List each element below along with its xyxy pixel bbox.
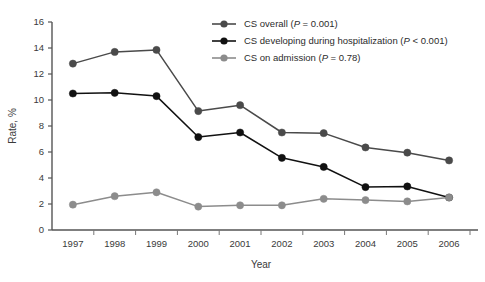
- data-point: [278, 129, 285, 136]
- data-point: [278, 202, 285, 209]
- x-tick-label: 2006: [439, 238, 460, 249]
- legend-marker-icon: [220, 20, 227, 27]
- y-tick-label: 6: [39, 146, 44, 157]
- data-point: [195, 203, 202, 210]
- data-point: [320, 195, 327, 202]
- legend-label: CS overall (P = 0.001): [244, 18, 338, 29]
- data-point: [237, 202, 244, 209]
- data-point: [446, 157, 453, 164]
- data-point: [111, 89, 118, 96]
- data-point: [69, 90, 76, 97]
- y-tick-label: 2: [39, 198, 44, 209]
- x-tick-label: 2002: [271, 238, 292, 249]
- legend-p-value: = 0.78): [328, 52, 360, 63]
- data-point: [362, 144, 369, 151]
- data-point: [69, 201, 76, 208]
- x-tick-label: 2004: [355, 238, 376, 249]
- y-tick-label: 10: [33, 94, 44, 105]
- legend-label-main: CS developing during hospitalization (: [244, 35, 404, 46]
- y-tick-label: 0: [39, 224, 44, 235]
- series-3: [69, 189, 452, 211]
- data-point: [237, 102, 244, 109]
- y-tick-label: 12: [33, 68, 44, 79]
- series-line: [73, 50, 449, 161]
- data-point: [362, 184, 369, 191]
- line-chart: 0246810121416Rate, %19971998199920002001…: [0, 0, 485, 282]
- series-line: [73, 192, 449, 206]
- data-point: [320, 130, 327, 137]
- x-tick-label: 2003: [313, 238, 334, 249]
- legend-item-1[interactable]: CS overall (P = 0.001): [212, 18, 338, 29]
- x-tick-label: 1998: [104, 238, 125, 249]
- data-point: [111, 193, 118, 200]
- data-point: [404, 149, 411, 156]
- x-tick-label: 2005: [397, 238, 418, 249]
- data-point: [446, 194, 453, 201]
- y-tick-label: 8: [39, 120, 44, 131]
- series-2: [69, 89, 452, 201]
- x-tick-label: 2001: [230, 238, 251, 249]
- data-point: [69, 60, 76, 67]
- legend-p-value: < 0.001): [410, 35, 448, 46]
- data-point: [195, 107, 202, 114]
- legend-item-2[interactable]: CS developing during hospitalization (P …: [212, 35, 448, 46]
- data-point: [404, 198, 411, 205]
- series-1: [69, 46, 452, 164]
- y-axis-title: Rate, %: [7, 108, 18, 144]
- legend-label-main: CS on admission (: [244, 52, 322, 63]
- data-point: [278, 154, 285, 161]
- data-point: [153, 189, 160, 196]
- legend-marker-icon: [220, 54, 227, 61]
- data-point: [111, 48, 118, 55]
- y-tick-label: 16: [33, 16, 44, 27]
- chart-container: 0246810121416Rate, %19971998199920002001…: [0, 0, 485, 282]
- data-point: [153, 46, 160, 53]
- data-point: [237, 129, 244, 136]
- x-axis-title: Year: [251, 259, 272, 270]
- legend-item-3[interactable]: CS on admission (P = 0.78): [212, 52, 360, 63]
- series-line: [73, 93, 449, 198]
- x-tick-label: 1999: [146, 238, 167, 249]
- data-point: [404, 183, 411, 190]
- y-tick-label: 14: [33, 42, 44, 53]
- x-tick-label: 2000: [188, 238, 209, 249]
- data-point: [362, 197, 369, 204]
- legend-marker-icon: [220, 37, 227, 44]
- x-tick-label: 1997: [62, 238, 83, 249]
- data-point: [195, 133, 202, 140]
- data-point: [153, 93, 160, 100]
- legend-p-value: = 0.001): [300, 18, 338, 29]
- y-tick-label: 4: [39, 172, 44, 183]
- data-point: [320, 163, 327, 170]
- legend-label-main: CS overall (: [244, 18, 294, 29]
- legend-label: CS on admission (P = 0.78): [244, 52, 360, 63]
- legend-label: CS developing during hospitalization (P …: [244, 35, 448, 46]
